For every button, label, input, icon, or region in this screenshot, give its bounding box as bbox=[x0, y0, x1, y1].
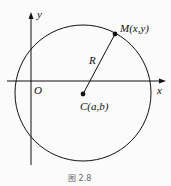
point-m-label: M(x,y) bbox=[119, 22, 149, 35]
center-label: C(a,b) bbox=[80, 100, 109, 113]
radius-line bbox=[83, 34, 115, 94]
y-axis-label: y bbox=[36, 8, 42, 20]
origin-label: O bbox=[34, 84, 42, 96]
radius-label: R bbox=[88, 54, 96, 66]
x-axis-arrow-icon bbox=[159, 79, 166, 84]
x-axis-label: x bbox=[156, 84, 162, 96]
y-axis-arrow-icon bbox=[29, 12, 34, 19]
point-m bbox=[113, 32, 118, 37]
center-point bbox=[81, 92, 86, 97]
figure-caption: 图 2.8 bbox=[68, 174, 91, 183]
circle-diagram: y x O M(x,y) R C(a,b) 图 2.8 bbox=[0, 0, 171, 186]
